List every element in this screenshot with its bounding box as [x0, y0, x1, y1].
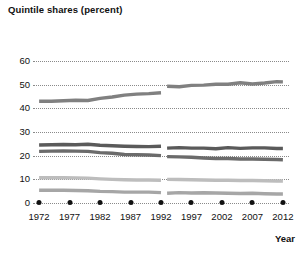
x-axis-tick-label: 1977 [59, 211, 80, 222]
x-axis-tick-mark [159, 200, 164, 205]
y-axis-tick-label: 60 [2, 55, 30, 66]
x-axis-tick-label: 2002 [211, 211, 232, 222]
x-axis-title: Year [275, 233, 295, 244]
chart-title: Quintile shares (percent) [8, 4, 122, 15]
series-line [167, 157, 283, 160]
x-axis-tick-mark [128, 200, 133, 205]
plot-area [33, 61, 289, 203]
y-axis-tick-label: 10 [2, 173, 30, 184]
x-axis-tick-labels: 197219771982198719921997200220072012 [0, 211, 303, 225]
series-line [39, 190, 161, 192]
x-axis-tick-label: 1992 [150, 211, 171, 222]
x-axis-tick-label: 1972 [29, 211, 50, 222]
series-line [39, 93, 161, 102]
series-line [39, 178, 161, 181]
y-axis-tick-label: 30 [2, 126, 30, 137]
y-axis-tick-label: 20 [2, 150, 30, 161]
x-axis-tick-mark [219, 200, 224, 205]
x-axis-tick-marks [33, 200, 289, 210]
x-axis-tick-label: 1987 [120, 211, 141, 222]
series-line [167, 193, 283, 194]
x-axis-tick-mark [67, 200, 72, 205]
x-axis-tick-label: 2012 [272, 211, 293, 222]
x-axis-tick-label: 2007 [242, 211, 263, 222]
series-line [39, 151, 161, 156]
series-line [167, 148, 283, 149]
series-line [167, 82, 283, 87]
y-axis-tick-label: 40 [2, 102, 30, 113]
x-axis-tick-mark [250, 200, 255, 205]
y-axis-tick-label: 50 [2, 79, 30, 90]
x-axis-tick-label: 1997 [181, 211, 202, 222]
x-axis-tick-label: 1982 [89, 211, 110, 222]
y-axis-tick-label: 0 [2, 197, 30, 208]
series-lines [33, 61, 289, 203]
chart-container: Quintile shares (percent) 0102030405060 … [0, 0, 303, 256]
x-axis-tick-mark [37, 200, 42, 205]
series-line [167, 179, 283, 181]
x-axis-tick-mark [98, 200, 103, 205]
x-axis-tick-mark [280, 200, 285, 205]
series-line [39, 144, 161, 146]
y-axis-tick-labels: 0102030405060 [0, 61, 30, 203]
x-axis-tick-mark [189, 200, 194, 205]
